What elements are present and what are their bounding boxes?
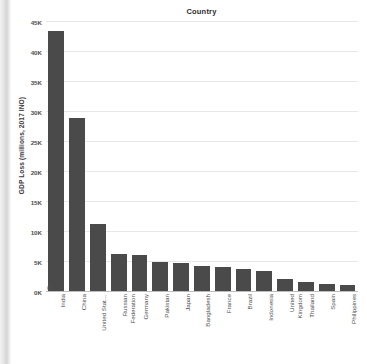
bar-slot	[88, 22, 109, 292]
bar-chart-figure: Country GDP Loss (millions, 2017 INO) 0K…	[0, 0, 367, 364]
x-tick-label: Thailand	[308, 294, 316, 318]
bar-slot	[296, 22, 317, 292]
y-tick-label: 20K	[31, 169, 42, 176]
y-tick-label: 25K	[31, 139, 42, 146]
bar-slot	[316, 22, 337, 292]
y-tick-label: 30K	[31, 109, 42, 116]
bar[interactable]	[256, 271, 272, 292]
bar-slot	[192, 22, 213, 292]
x-tick-label: China	[80, 294, 88, 310]
bar-slot	[212, 22, 233, 292]
x-axis-tick-labels: IndiaChinaUnited Stat…RussianFederationG…	[46, 294, 358, 364]
bar[interactable]	[90, 224, 106, 292]
bar-slot	[67, 22, 88, 292]
x-tick-label: Spain	[329, 294, 337, 310]
x-tick-label: Brazil	[246, 294, 254, 309]
x-tick-label: Philippines	[350, 294, 358, 324]
y-tick-label: 0K	[34, 289, 42, 296]
bar[interactable]	[236, 269, 252, 292]
x-tick-label: France	[225, 294, 233, 313]
plot-area: 0K5K10K15K20K25K30K35K40K45K 0	[46, 22, 358, 292]
bar-slot	[275, 22, 296, 292]
bar[interactable]	[111, 254, 127, 292]
bar[interactable]	[215, 267, 231, 292]
bar-slot	[171, 22, 192, 292]
y-tick-label: 45K	[31, 19, 42, 26]
bar-slot	[150, 22, 171, 292]
bar[interactable]	[48, 31, 64, 292]
x-tick-label: Pakistan	[163, 294, 171, 318]
x-tick-label: India	[59, 294, 67, 307]
y-tick-label: 10K	[31, 229, 42, 236]
bar[interactable]	[194, 266, 210, 292]
x-tick-label: United Stat…	[100, 294, 108, 331]
x-tick-label: Bangladesh	[204, 294, 212, 327]
x-tick-label: Germany	[142, 294, 150, 319]
y-tick-label: 15K	[31, 199, 42, 206]
x-tick-label: Japan	[184, 294, 192, 311]
bar-slot	[254, 22, 275, 292]
bars	[46, 22, 358, 292]
x-tick-label: UnitedKingdom	[288, 294, 303, 318]
y-tick-label: 40K	[31, 49, 42, 56]
zero-origin-marker: 0	[47, 286, 50, 292]
x-tick-label: Indonesia	[267, 294, 275, 321]
x-axis-baseline	[46, 291, 358, 292]
bar-slot	[337, 22, 358, 292]
bar[interactable]	[173, 263, 189, 292]
chart-title: Country	[44, 7, 359, 16]
bar-slot	[46, 22, 67, 292]
y-tick-label: 35K	[31, 79, 42, 86]
x-tick-label: RussianFederation	[121, 294, 136, 324]
bar-slot	[108, 22, 129, 292]
bar-slot	[129, 22, 150, 292]
y-axis-title: GDP Loss (millions, 2017 INO)	[18, 91, 25, 201]
bar[interactable]	[132, 255, 148, 292]
bar[interactable]	[152, 262, 168, 292]
bar[interactable]	[69, 118, 85, 292]
bar-slot	[233, 22, 254, 292]
y-tick-label: 5K	[34, 259, 42, 266]
